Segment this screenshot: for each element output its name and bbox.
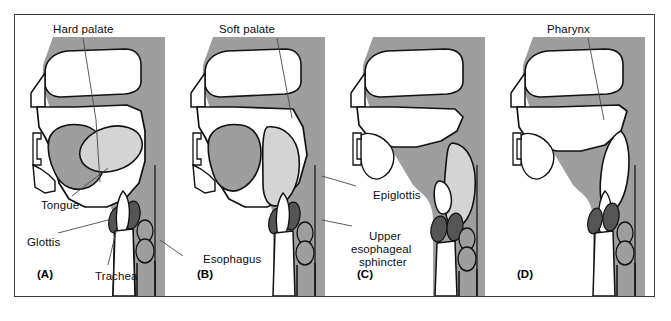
label-ues-line1: Upper bbox=[369, 230, 401, 243]
label-soft-palate: Soft palate bbox=[219, 23, 275, 36]
panel-c: Epiglottis Upper esophageal sphincter (C… bbox=[335, 15, 495, 296]
panel-id-a: (A) bbox=[37, 268, 53, 280]
panel-id-b: (B) bbox=[197, 268, 213, 280]
label-glottis: Glottis bbox=[27, 236, 60, 249]
figure-frame: Hard palate Tongue Glottis Trachea (A) bbox=[14, 14, 655, 297]
panel-id-c: (C) bbox=[357, 268, 373, 280]
label-hard-palate: Hard palate bbox=[53, 23, 114, 36]
panel-a-anatomy bbox=[15, 15, 175, 296]
label-ues-line3: sphincter bbox=[359, 256, 407, 269]
label-epiglottis: Epiglottis bbox=[373, 189, 421, 202]
panel-id-d: (D) bbox=[517, 268, 533, 280]
panel-d-anatomy bbox=[495, 15, 655, 296]
label-trachea: Trachea bbox=[95, 270, 137, 283]
panel-d: Pharynx (D) bbox=[495, 15, 655, 296]
panel-a: Hard palate Tongue Glottis Trachea (A) bbox=[15, 15, 175, 296]
label-tongue: Tongue bbox=[41, 199, 79, 212]
swallowing-figure: Hard palate Tongue Glottis Trachea (A) bbox=[0, 0, 671, 321]
panel-b: Soft palate Esophagus (B) bbox=[175, 15, 335, 296]
label-ues-line2: esophageal bbox=[351, 243, 411, 256]
label-esophagus: Esophagus bbox=[203, 253, 261, 266]
label-pharynx: Pharynx bbox=[547, 23, 590, 36]
